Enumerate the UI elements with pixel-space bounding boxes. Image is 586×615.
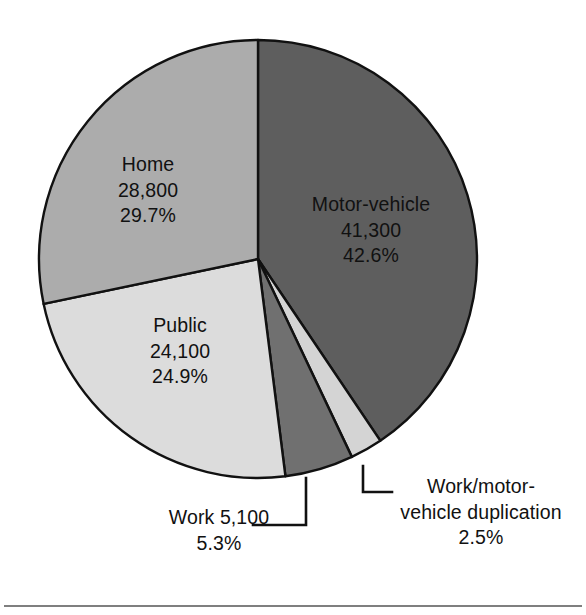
callout-label-work-percent: 5.3% [197,532,242,554]
slice-label-home-value: 28,800 [83,178,213,204]
slice-label-public-percent: 24.9% [110,364,250,390]
callout-label-work: Work 5,100 5.3% [160,505,278,556]
slice-label-motor-vehicle-value: 41,300 [271,218,471,244]
callout-label-duplication: Work/motor- vehicle duplication 2.5% [383,474,579,551]
slice-label-home: Home 28,800 29.7% [83,152,213,229]
slice-label-public-value: 24,100 [110,339,250,365]
slice-label-motor-vehicle-percent: 42.6% [271,243,471,269]
slice-label-home-name: Home [83,152,213,178]
callout-label-duplication-percent: 2.5% [383,525,579,551]
callout-label-work-name: Work [169,506,215,528]
slice-label-home-percent: 29.7% [83,203,213,229]
callout-label-duplication-name-line1: Work/motor- [383,474,579,500]
pie-chart-figure: Motor-vehicle 41,300 42.6% Home 28,800 2… [0,0,586,615]
slice-label-motor-vehicle: Motor-vehicle 41,300 42.6% [271,192,471,269]
slice-label-motor-vehicle-name: Motor-vehicle [271,192,471,218]
slice-label-public: Public 24,100 24.9% [110,313,250,390]
callout-label-duplication-name-line2: vehicle duplication [383,500,579,526]
callout-label-work-value: 5,100 [220,506,269,528]
slice-label-public-name: Public [110,313,250,339]
